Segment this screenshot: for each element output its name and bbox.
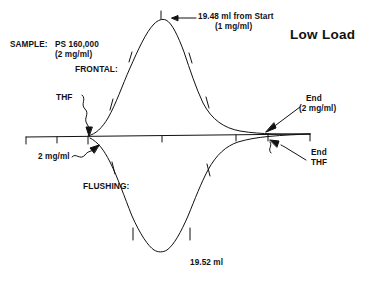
peak-leader-annotation <box>172 16 196 21</box>
sample-value-label: PS 160,000 <box>55 40 99 49</box>
frontal-curve <box>88 11 310 136</box>
end-thf-label-line1: End <box>311 148 327 157</box>
sample-concentration-label: (2 mg/ml) <box>55 50 92 59</box>
flushing-series-label: FLUSHING: <box>83 182 130 192</box>
peak-volume-label: 19.48 ml from Start <box>198 12 274 21</box>
baseline-axis <box>26 134 310 144</box>
left-concentration-squiggle-arrow <box>72 145 99 157</box>
figure-title: Low Load <box>290 27 355 43</box>
end-concentration-label: (2 mg/ml) <box>299 104 336 113</box>
chromatogram-figure: SAMPLE: PS 160,000 (2 mg/ml) FRONTAL: TH… <box>0 0 368 284</box>
end-arrow <box>266 107 300 132</box>
end-thf-squiggle-arrow <box>270 140 306 160</box>
left-concentration-label: 2 mg/ml <box>38 152 70 161</box>
end-label: End <box>306 94 322 103</box>
thf-label: THF <box>56 93 73 103</box>
thf-squiggle-arrow <box>82 95 92 136</box>
frontal-series-label: FRONTAL: <box>75 65 118 75</box>
trough-volume-label: 19.52 ml <box>190 258 223 267</box>
sample-key-label: SAMPLE: <box>10 40 48 49</box>
peak-concentration-label: (1 mg/ml) <box>215 22 252 31</box>
end-thf-label-line2: THF <box>311 158 327 167</box>
flushing-curve <box>90 134 310 252</box>
